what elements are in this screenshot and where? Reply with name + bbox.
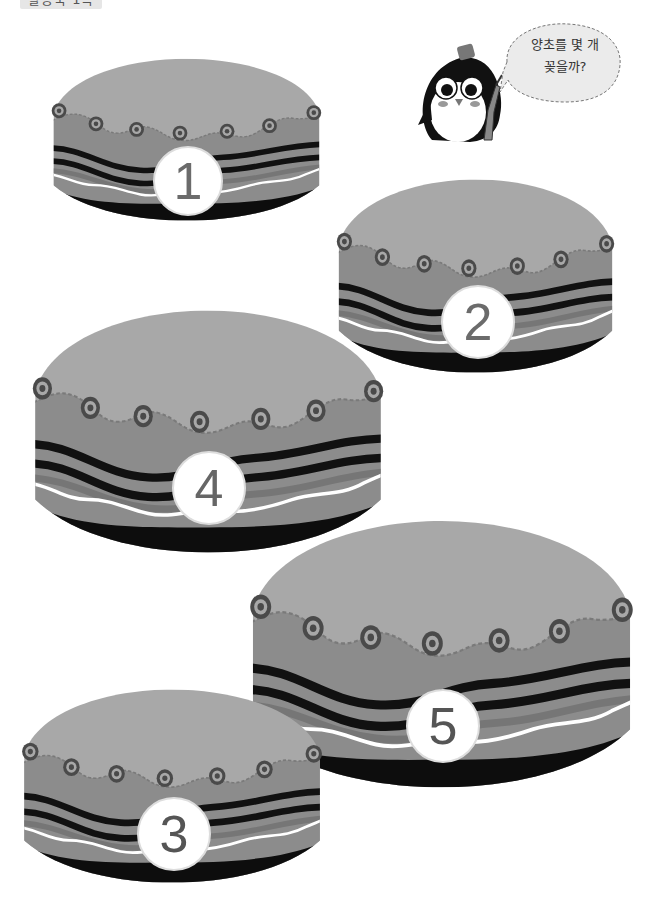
cakes-scene [0, 0, 655, 904]
cake-2-number: 2 [458, 293, 498, 351]
cake-4-number: 4 [189, 459, 229, 517]
speech-line-1: 양초를 몇 개 [505, 34, 625, 56]
cake-5-number: 5 [423, 697, 463, 755]
speech-bubble-text: 양초를 몇 개 꽂을까? [505, 34, 625, 78]
cake-1-number: 1 [168, 152, 208, 210]
cake-3-number: 3 [154, 805, 194, 863]
speech-line-2: 꽂을까? [505, 56, 625, 78]
penguin-illustration [418, 43, 502, 142]
